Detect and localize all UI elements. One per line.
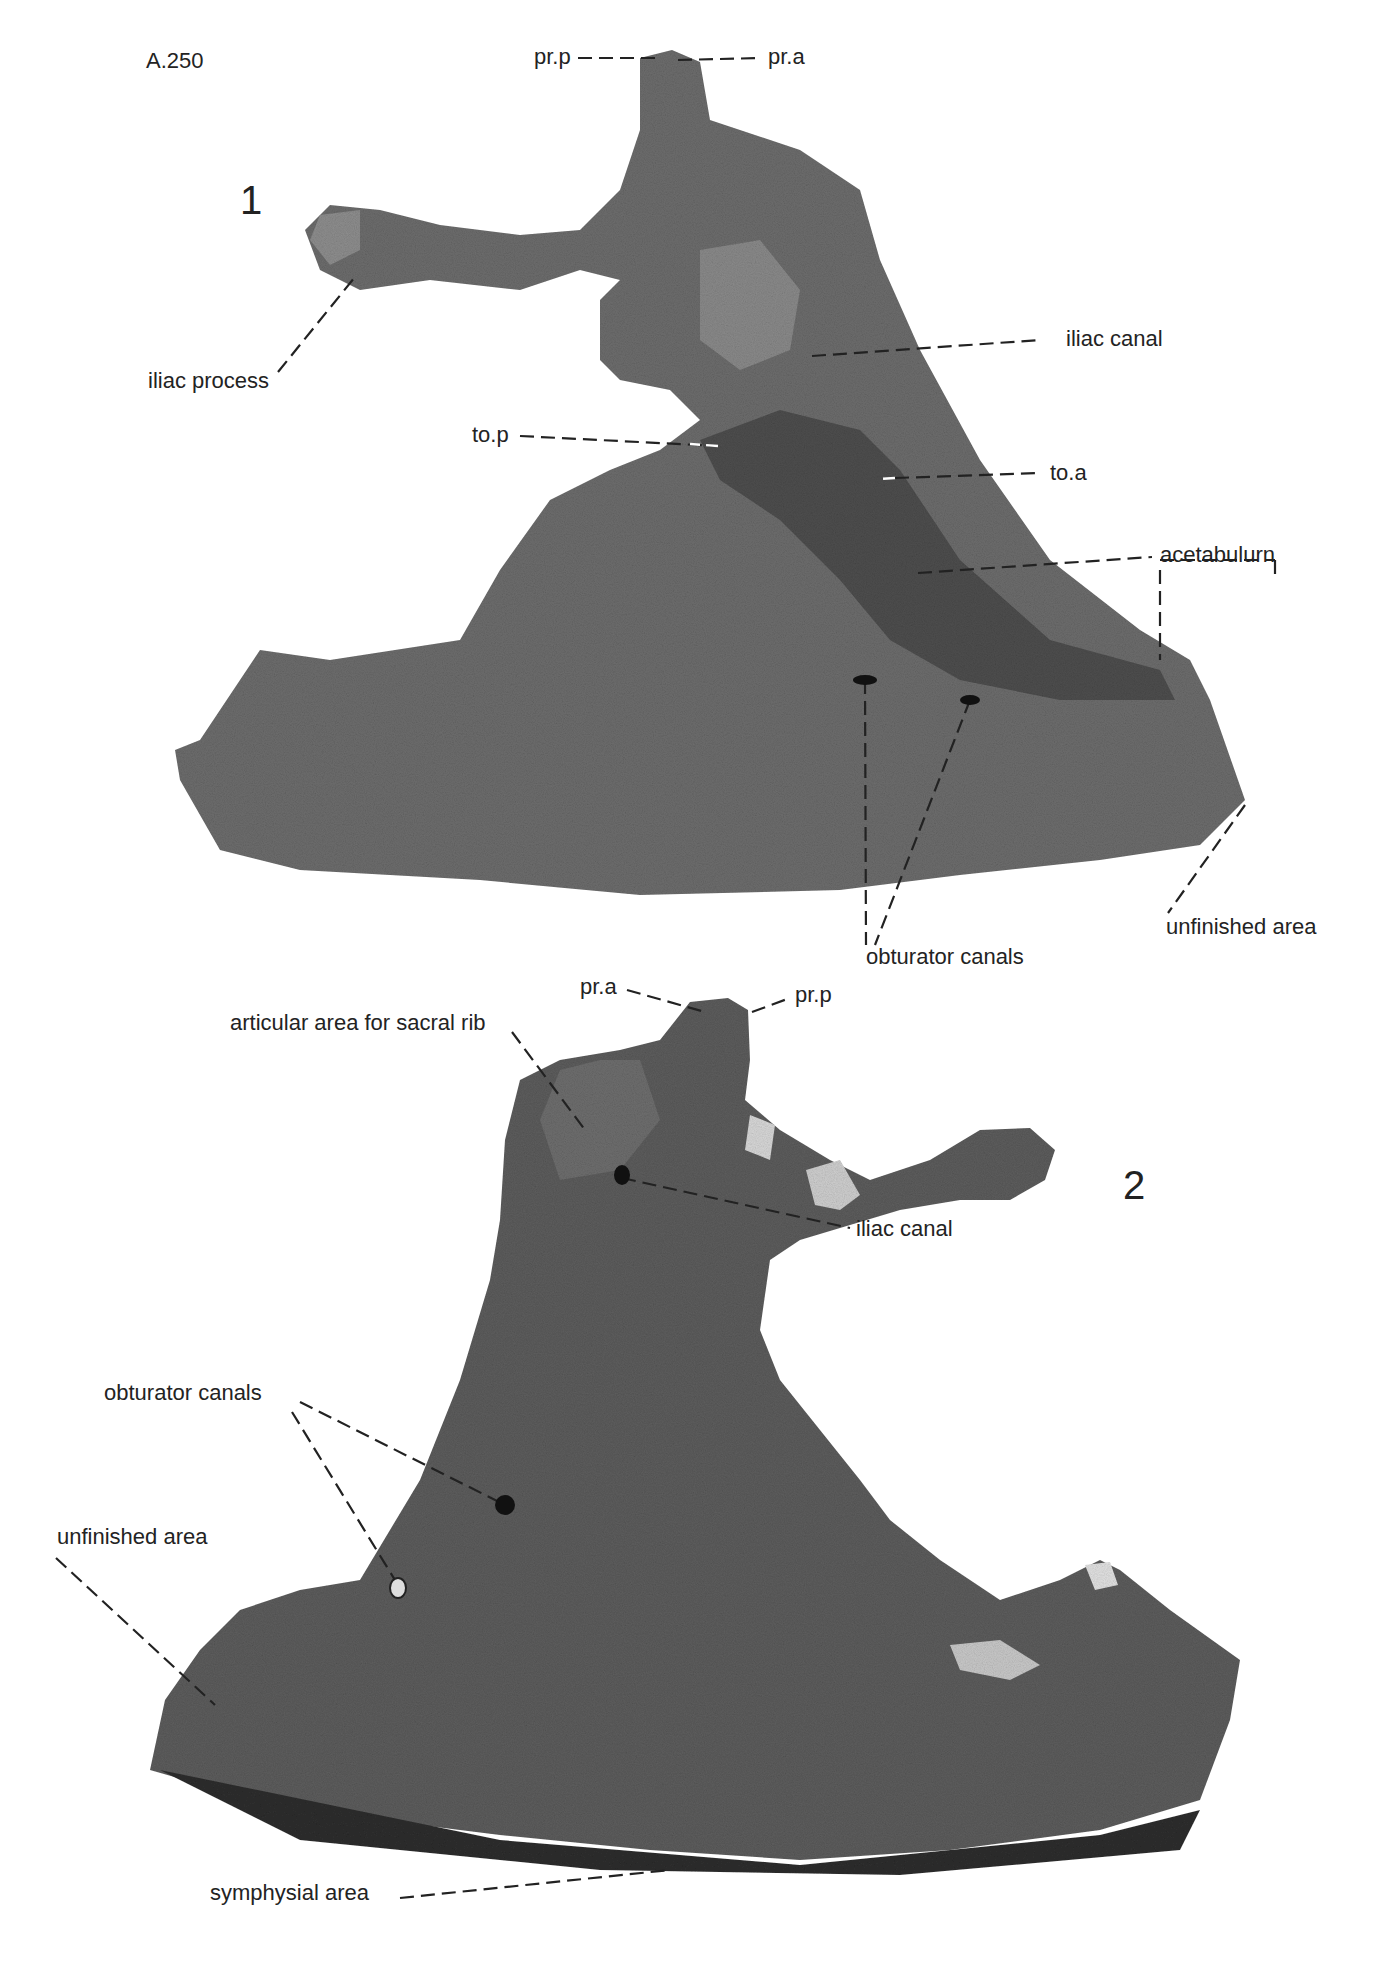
label-pr-p-fig2: pr.p <box>795 984 832 1006</box>
label-pr-p-fig1: pr.p <box>534 46 571 68</box>
label-acetabulum-fig1: acetabulurn <box>1160 544 1275 566</box>
label-pr-a-fig2: pr.a <box>580 976 617 998</box>
label-iliac-canal-fig2: iliac canal <box>856 1218 953 1240</box>
label-unfinished-area-fig2: unfinished area <box>57 1526 207 1548</box>
label-pr-a-fig1: pr.a <box>768 46 805 68</box>
figure-2-number: 2 <box>1123 1165 1145 1205</box>
label-symphysial-area-fig2: symphysial area <box>210 1882 369 1904</box>
label-unfinished-area-fig1: unfinished area <box>1166 916 1316 938</box>
label-iliac-process-fig1: iliac process <box>148 370 269 392</box>
specimen-id: A.250 <box>146 50 204 72</box>
label-iliac-canal-fig1: iliac canal <box>1066 328 1163 350</box>
label-articular-area-fig2: articular area for sacral rib <box>230 1012 486 1034</box>
label-to-a-fig1: to.a <box>1050 462 1087 484</box>
label-obturator-canals-fig1: obturator canals <box>866 946 1024 968</box>
fossil-plate-art <box>0 0 1385 1963</box>
figure-1-number: 1 <box>240 180 262 220</box>
label-obturator-canals-fig2: obturator canals <box>104 1382 262 1404</box>
figure-2-bone <box>150 998 1240 1875</box>
label-to-p-fig1: to.p <box>472 424 509 446</box>
